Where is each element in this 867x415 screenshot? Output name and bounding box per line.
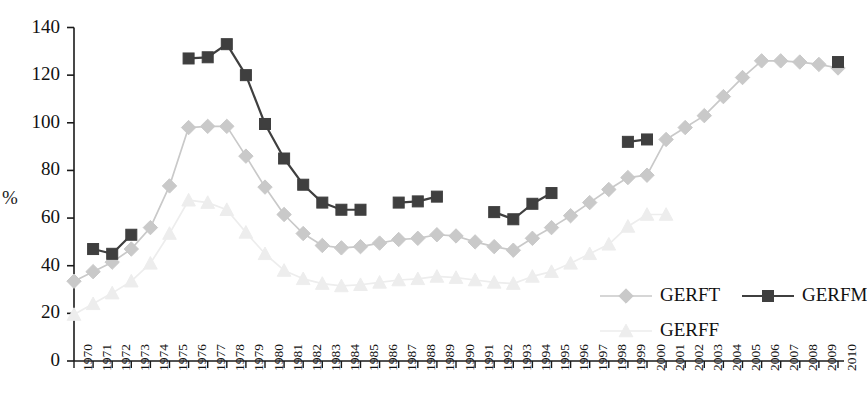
x-tick-label: 2008 — [805, 344, 821, 371]
x-tick-label: 1977 — [213, 344, 229, 371]
y-tick-label: 120 — [18, 63, 60, 85]
x-tick-label: 1986 — [385, 344, 401, 371]
x-tick-label: 2004 — [729, 344, 745, 371]
x-tick-label: 1999 — [633, 344, 649, 371]
y-tick-label: 140 — [18, 16, 60, 38]
x-tick-label: 2003 — [710, 344, 726, 371]
x-tick-label: 1990 — [462, 344, 478, 371]
x-tick-label: 1978 — [232, 344, 248, 371]
x-tick-label: 1973 — [137, 344, 153, 371]
x-tick-label: 1972 — [118, 344, 134, 371]
x-tick-label: 2006 — [767, 344, 783, 371]
y-tick-label: 0 — [18, 349, 60, 371]
x-tick-label: 2010 — [844, 344, 860, 371]
x-tick-label: 1983 — [328, 344, 344, 371]
legend-label: GERFT — [660, 284, 720, 306]
x-tick-label: 2009 — [824, 344, 840, 371]
y-tick-label: 80 — [18, 158, 60, 180]
x-tick-label: 2001 — [672, 344, 688, 371]
x-tick-label: 1975 — [175, 344, 191, 371]
x-tick-label: 1974 — [156, 344, 172, 371]
y-tick-label: 60 — [18, 206, 60, 228]
x-tick-label: 1989 — [442, 344, 458, 371]
x-tick-label: 1991 — [481, 344, 497, 371]
x-tick-label: 1985 — [366, 344, 382, 371]
x-tick-label: 1979 — [251, 344, 267, 371]
legend-marker-square-icon — [740, 286, 796, 306]
x-tick-label: 1971 — [99, 344, 115, 371]
x-tick-label: 1981 — [290, 344, 306, 371]
x-tick-label: 2000 — [653, 344, 669, 371]
x-tick-label: 1987 — [404, 344, 420, 371]
x-tick-label: 1994 — [538, 344, 554, 371]
legend-label: GERFF — [660, 319, 719, 341]
x-tick-label: 1992 — [500, 344, 516, 371]
x-tick-label: 1993 — [519, 344, 535, 371]
series-gerfm — [88, 39, 844, 260]
x-tick-label: 1970 — [80, 344, 96, 371]
x-tick-label: 1995 — [557, 344, 573, 371]
x-tick-label: 2002 — [691, 344, 707, 371]
x-tick-label: 1980 — [271, 344, 287, 371]
x-tick-label: 1988 — [423, 344, 439, 371]
x-tick-label: 1996 — [576, 344, 592, 371]
legend-marker-triangle-icon — [598, 321, 654, 341]
x-tick-label: 1982 — [309, 344, 325, 371]
legend-marker-diamond-icon — [598, 286, 654, 306]
x-tick-label: 1984 — [347, 344, 363, 371]
y-tick-label: 100 — [18, 111, 60, 133]
x-tick-label: 1998 — [614, 344, 630, 371]
x-tick-label: 2005 — [748, 344, 764, 371]
legend-label: GERFM — [802, 284, 867, 306]
series-gerft — [67, 54, 845, 289]
x-tick-label: 1997 — [595, 344, 611, 371]
x-tick-label: 2007 — [786, 344, 802, 371]
y-tick-label: 20 — [18, 301, 60, 323]
y-tick-label: 40 — [18, 254, 60, 276]
x-tick-label: 1976 — [194, 344, 210, 371]
